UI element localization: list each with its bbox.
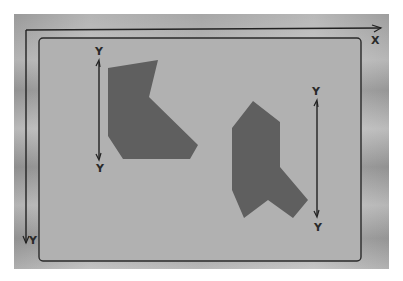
diagram-overlay: X Y Y Y Y Y: [0, 0, 403, 281]
right-y-bottom-label: Y: [313, 221, 323, 234]
diagram-canvas: X Y Y Y Y Y: [0, 0, 403, 281]
right-y-top-label: Y: [311, 85, 321, 98]
inner-panel: [39, 38, 361, 261]
left-y-top-label: Y: [94, 45, 104, 58]
left-y-bottom-label: Y: [95, 162, 105, 175]
x-axis-label: X: [371, 34, 380, 47]
x-axis-line: [26, 28, 381, 30]
y-axis-label: Y: [28, 234, 38, 247]
